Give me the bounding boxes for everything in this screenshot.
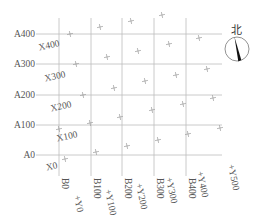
rotated-y-label: +Y200: [134, 182, 149, 210]
crosshair-icon: [134, 47, 141, 54]
grid-a-label: A400: [14, 29, 35, 39]
crosshair-icon: [127, 17, 134, 24]
crosshair-icon: [172, 71, 179, 78]
crosshair-icon: [110, 84, 117, 91]
grid-b-label: B200: [123, 178, 133, 199]
crosshair-icon: [184, 130, 191, 137]
rotated-y-label: +Y300: [164, 176, 179, 204]
crosshair-icon: [209, 94, 216, 101]
rotated-y-label: +Y0: [72, 194, 85, 213]
grid-b-label: B400: [187, 178, 197, 199]
grid-a-label: A100: [14, 120, 35, 130]
crosshair-icon: [96, 23, 103, 30]
grid-a-label: A200: [14, 90, 35, 100]
north-label: 北: [231, 24, 242, 36]
north-arrow-needle-icon: [235, 37, 242, 62]
diagram-canvas: B0B100B200B300B400 A400A300A200A100A0 X4…: [0, 0, 256, 222]
crosshair-icon: [179, 100, 186, 107]
rotated-y-label: +Y500: [226, 163, 241, 191]
rotated-x-label: X0: [45, 160, 59, 172]
grid-b-label: B300: [155, 178, 165, 199]
rotated-x-label: X300: [44, 69, 67, 83]
crosshair-icon: [103, 53, 110, 60]
crosshair-icon: [158, 11, 165, 18]
crosshair-icon: [165, 40, 172, 47]
grid-b-columns: B0B100B200B300B400: [59, 18, 197, 199]
north-arrow-compass: 北: [225, 24, 249, 62]
crosshair-icon: [195, 34, 202, 41]
crosshair-icon: [141, 77, 148, 84]
coordinate-grid-diagram: B0B100B200B300B400 A400A300A200A100A0 X4…: [0, 0, 256, 222]
crosshair-icon: [86, 119, 93, 126]
crosshair-icon: [216, 124, 223, 131]
crosshair-icon: [123, 142, 130, 149]
crosshair-icon: [148, 106, 155, 113]
crosshair-icon: [92, 148, 99, 155]
rotated-y-label: +Y100: [103, 188, 118, 216]
grid-b-label: B100: [92, 178, 102, 199]
grid-b-label: B0: [60, 178, 70, 189]
rotated-x-label: X200: [50, 99, 73, 113]
rotated-x-label: X400: [38, 38, 61, 52]
grid-a-label: A0: [23, 150, 35, 160]
crosshair-icon: [154, 136, 161, 143]
crosshair-icon: [61, 155, 68, 162]
grid-a-label: A300: [14, 59, 35, 69]
crosshair-icon: [116, 113, 123, 120]
rotated-x-labels: X400X300X200X100X0: [38, 38, 79, 172]
crosshair-icon: [203, 65, 210, 72]
